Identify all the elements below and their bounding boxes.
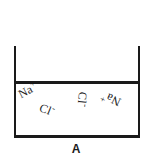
beaker-bottom-wall bbox=[14, 135, 140, 138]
beaker-right-wall bbox=[138, 46, 140, 138]
ion-label-chloride-right: Cl- bbox=[75, 91, 89, 107]
figure-caption-label: A bbox=[0, 142, 152, 156]
figure-dissolved-ions-beaker: Na+ Cl- Cl- Na+ A bbox=[0, 0, 152, 164]
beaker-left-wall bbox=[14, 46, 16, 138]
ion-symbol: Cl bbox=[75, 91, 90, 104]
